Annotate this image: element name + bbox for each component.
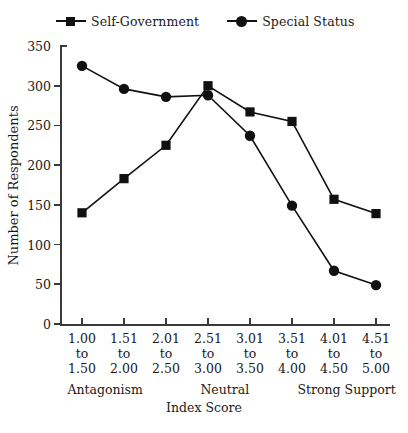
series-layer xyxy=(60,45,390,326)
x-axis-tick-label-line: to xyxy=(278,346,306,361)
x-axis-tick-label-line: to xyxy=(68,346,96,361)
plot-area: 050100150200250300350 xyxy=(60,45,390,326)
series-line xyxy=(82,86,376,214)
x-axis-tick-label-line: 1.51 xyxy=(110,331,138,346)
x-axis-tick-label: 4.01to4.50 xyxy=(320,331,348,376)
data-point[interactable] xyxy=(245,131,255,141)
data-point[interactable] xyxy=(77,208,86,217)
y-axis-title: Number of Respondents xyxy=(4,45,22,326)
data-point[interactable] xyxy=(371,209,380,218)
y-axis-tick-label: 200 xyxy=(27,158,51,173)
x-axis-tick-label-line: 2.00 xyxy=(110,361,138,376)
data-point[interactable] xyxy=(161,92,171,102)
x-axis-tick-label: 3.01to3.50 xyxy=(236,331,264,376)
data-point[interactable] xyxy=(329,195,338,204)
x-axis-anchor-labels: AntagonismNeutralStrong Support xyxy=(0,382,408,400)
x-axis-anchor-label: Strong Support xyxy=(297,382,395,397)
x-axis-tick-label-line: 4.01 xyxy=(320,331,348,346)
square-marker-icon xyxy=(56,15,86,27)
y-axis-tick-label: 250 xyxy=(27,118,51,133)
data-point[interactable] xyxy=(161,141,170,150)
legend-item-self-government[interactable]: Self-Government xyxy=(56,14,199,29)
data-point[interactable] xyxy=(371,280,381,290)
y-axis-tick-label: 100 xyxy=(27,237,51,252)
x-axis-tick-label-line: to xyxy=(362,346,390,361)
x-axis-tick-label-line: to xyxy=(194,346,222,361)
x-axis-tick-label-line: to xyxy=(236,346,264,361)
legend-item-special-status[interactable]: Special Status xyxy=(227,14,354,29)
circle-marker-icon xyxy=(227,15,257,27)
series-self-government xyxy=(77,81,380,218)
x-axis-tick-label-line: to xyxy=(320,346,348,361)
data-point[interactable] xyxy=(203,90,213,100)
x-axis-tick-label-line: 1.50 xyxy=(68,361,96,376)
x-axis-tick-label: 3.51to4.00 xyxy=(278,331,306,376)
chart-figure: Self-Government Special Status Number of… xyxy=(0,0,408,433)
x-axis-anchor-label: Antagonism xyxy=(67,382,142,397)
data-point[interactable] xyxy=(119,174,128,183)
y-axis-tick-label: 300 xyxy=(27,78,51,93)
x-axis-tick-label: 4.51to5.00 xyxy=(362,331,390,376)
data-point[interactable] xyxy=(287,117,296,126)
x-axis-tick-label-line: 2.01 xyxy=(152,331,180,346)
legend-label-special-status: Special Status xyxy=(262,14,354,29)
x-axis-tick-label-line: 4.00 xyxy=(278,361,306,376)
chart-legend: Self-Government Special Status xyxy=(56,10,396,32)
x-axis-tick-label-line: 4.50 xyxy=(320,361,348,376)
data-point[interactable] xyxy=(203,81,212,90)
legend-label-self-government: Self-Government xyxy=(91,14,199,29)
x-axis-tick-label-line: 3.51 xyxy=(278,331,306,346)
x-axis-tick-label: 2.01to2.50 xyxy=(152,331,180,376)
x-axis-tick-label: 1.00to1.50 xyxy=(68,331,96,376)
x-axis-tick-label: 2.51to3.00 xyxy=(194,331,222,376)
data-point[interactable] xyxy=(77,61,87,71)
x-axis-tick-label-line: 2.50 xyxy=(152,361,180,376)
data-point[interactable] xyxy=(287,200,297,210)
y-axis-tick-label: 150 xyxy=(27,197,51,212)
x-axis-tick-label-line: 5.00 xyxy=(362,361,390,376)
data-point[interactable] xyxy=(245,107,254,116)
y-axis-title-text: Number of Respondents xyxy=(6,105,21,265)
x-axis-tick-label-line: 3.50 xyxy=(236,361,264,376)
x-axis-tick-label-line: 1.00 xyxy=(68,331,96,346)
x-axis-tick-labels: 1.00to1.501.51to2.002.01to2.502.51to3.00… xyxy=(60,331,390,379)
x-axis-tick-label-line: to xyxy=(110,346,138,361)
x-axis-tick-label-line: to xyxy=(152,346,180,361)
y-axis-tick-label: 0 xyxy=(43,317,51,332)
y-axis-tick-label: 350 xyxy=(27,39,51,54)
x-axis-tick-label-line: 3.01 xyxy=(236,331,264,346)
x-axis-tick-label-line: 3.00 xyxy=(194,361,222,376)
x-axis-tick-label: 1.51to2.00 xyxy=(110,331,138,376)
data-point[interactable] xyxy=(329,266,339,276)
x-axis-title: Index Score xyxy=(0,400,408,415)
x-axis-tick-label-line: 4.51 xyxy=(362,331,390,346)
y-axis-tick-label: 50 xyxy=(35,277,51,292)
x-axis-tick-label-line: 2.51 xyxy=(194,331,222,346)
x-axis-anchor-label: Neutral xyxy=(200,382,249,397)
data-point[interactable] xyxy=(119,84,129,94)
